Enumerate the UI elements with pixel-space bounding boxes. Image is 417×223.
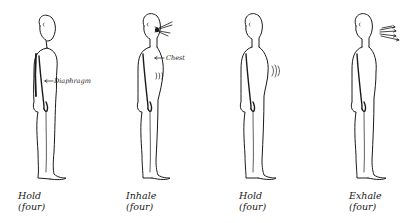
- phase-label: Hold: [239, 190, 266, 201]
- diaphragm-label: Diaphragm: [54, 77, 91, 85]
- phase-label: Hold: [18, 190, 45, 201]
- caption-panel-4: Exhale (four): [349, 190, 382, 212]
- figure-inhale: [137, 14, 170, 180]
- phase-label: Inhale: [126, 190, 156, 201]
- chest-expansion-icon: [156, 73, 163, 79]
- caption-panel-2: Inhale (four): [126, 190, 156, 212]
- diaphragm-arrow-icon: [45, 80, 53, 83]
- count-label: (four): [18, 201, 45, 212]
- chest-label: Chest: [166, 54, 185, 62]
- figure-hold-2: [240, 14, 276, 180]
- count-label: (four): [349, 201, 382, 212]
- count-label: (four): [126, 201, 156, 212]
- phase-label: Exhale: [349, 190, 382, 201]
- inhale-air-icon: [155, 22, 172, 36]
- hold-expansion-icon: [272, 65, 280, 77]
- figure-exhale: [351, 14, 386, 180]
- caption-panel-3: Hold (four): [239, 190, 266, 212]
- caption-panel-1: Hold (four): [18, 190, 45, 212]
- figure-hold-1: [33, 15, 66, 179]
- count-label: (four): [239, 201, 266, 212]
- exhale-air-icon: [380, 26, 399, 42]
- breathing-diagram: Diaphragm Chest Hold (four) Inhale (four…: [0, 0, 417, 223]
